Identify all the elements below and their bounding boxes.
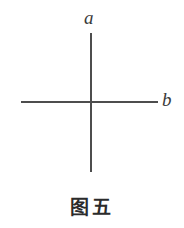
figure-caption: 图五: [0, 197, 184, 218]
line-b: [21, 101, 158, 103]
line-b-label: b: [162, 90, 172, 109]
diagram-canvas: a b: [0, 0, 184, 190]
line-a-label: a: [84, 8, 94, 27]
figure-container: a b 图五: [0, 0, 184, 228]
